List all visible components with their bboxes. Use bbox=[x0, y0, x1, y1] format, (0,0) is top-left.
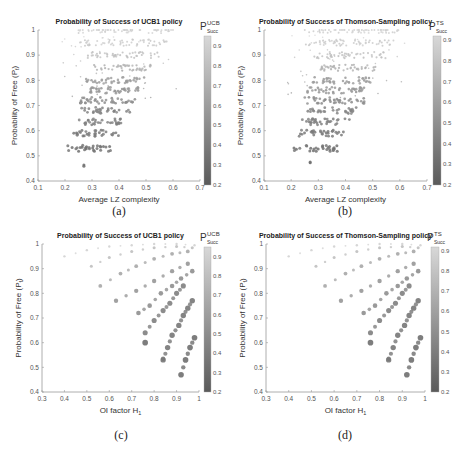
svg-text:Succ: Succ bbox=[207, 239, 219, 245]
colorbar-tick-label: 0.9 bbox=[213, 43, 222, 49]
y-tick-label: 0.5 bbox=[254, 364, 263, 371]
x-tick-label: 0.5 bbox=[307, 395, 316, 402]
svg-text:UCB: UCB bbox=[207, 20, 220, 26]
x-axis-label: Average LZ complexity bbox=[78, 195, 159, 204]
svg-text:TS: TS bbox=[436, 20, 444, 26]
y-tick-label: 0.9 bbox=[26, 51, 35, 58]
chart-panel-d: 0.30.40.50.60.70.80.910.40.50.60.70.80.9… bbox=[230, 225, 467, 434]
x-tick-label: 0.7 bbox=[352, 395, 361, 402]
colorbar bbox=[204, 247, 211, 392]
x-tick-label: 0.8 bbox=[150, 395, 159, 402]
colorbar-tick-label: 0.9 bbox=[441, 248, 450, 254]
colorbar-tick-label: 0.5 bbox=[213, 331, 222, 337]
x-tick-label: 1 bbox=[197, 395, 201, 402]
y-tick-label: 0.9 bbox=[252, 51, 261, 58]
y-tick-label: 0.5 bbox=[30, 364, 39, 371]
colorbar-tick-label: 0.8 bbox=[441, 268, 450, 274]
scatter-points bbox=[61, 29, 177, 168]
colorbar-tick-label: 0.4 bbox=[441, 349, 450, 355]
colorbar-tick-label: 0.3 bbox=[213, 162, 222, 168]
x-tick-label: 0.3 bbox=[261, 395, 270, 402]
x-tick-label: 0.7 bbox=[422, 184, 431, 191]
y-axis-label: Probability of Free (Pf) bbox=[236, 66, 246, 146]
chart-panel-a: 0.10.20.30.40.50.60.70.40.50.60.70.80.91… bbox=[0, 0, 237, 209]
x-tick-label: 0.1 bbox=[33, 184, 42, 191]
chart-title: Probability of Success of UCB1 policy bbox=[56, 18, 183, 26]
y-tick-label: 0.8 bbox=[254, 290, 263, 297]
colorbar-tick-label: 0.8 bbox=[443, 58, 452, 64]
x-tick-label: 0.3 bbox=[37, 395, 46, 402]
y-tick-label: 0.8 bbox=[26, 77, 35, 84]
colorbar-tick-label: 0.5 bbox=[213, 122, 222, 128]
x-tick-label: 0.4 bbox=[114, 184, 123, 191]
x-tick-label: 0.7 bbox=[195, 184, 204, 191]
y-axis-label: Probability of Free (Pf) bbox=[10, 66, 20, 146]
y-tick-label: 0.6 bbox=[30, 339, 39, 346]
colorbar-tick-label: 0.6 bbox=[441, 308, 450, 314]
x-tick-label: 0.6 bbox=[168, 184, 177, 191]
colorbar-tick-label: 0.2 bbox=[443, 182, 452, 188]
caption-a: (a) bbox=[99, 204, 139, 219]
colorbar-tick-label: 0.2 bbox=[441, 389, 450, 395]
x-axis-label: OI factor H1 bbox=[100, 406, 142, 416]
x-tick-label: 0.6 bbox=[395, 184, 404, 191]
x-tick-label: 0.3 bbox=[87, 184, 96, 191]
y-tick-label: 0.5 bbox=[26, 152, 35, 159]
colorbar-tick-label: 0.7 bbox=[441, 288, 450, 294]
y-tick-label: 0.8 bbox=[252, 77, 261, 84]
x-tick-label: 0.4 bbox=[60, 395, 69, 402]
scatter-points bbox=[288, 243, 424, 378]
x-tick-label: 0.2 bbox=[60, 184, 69, 191]
y-axis-label: Probability of Free (Pf) bbox=[14, 278, 24, 358]
colorbar-tick-label: 0.9 bbox=[213, 254, 222, 260]
caption-c: (c) bbox=[101, 428, 141, 443]
colorbar-tick-label: 0.7 bbox=[213, 83, 222, 89]
y-tick-label: 0.7 bbox=[26, 102, 35, 109]
y-tick-label: 0.6 bbox=[26, 127, 35, 134]
colorbar-tick-label: 0.6 bbox=[213, 103, 222, 109]
colorbar-tick-label: 0.2 bbox=[213, 182, 222, 188]
svg-text:Succ: Succ bbox=[436, 28, 448, 34]
colorbar-tick-label: 0.5 bbox=[443, 120, 452, 126]
x-tick-label: 1 bbox=[423, 395, 427, 402]
x-tick-label: 0.5 bbox=[141, 184, 150, 191]
y-tick-label: 1 bbox=[257, 26, 261, 33]
x-tick-label: 0.6 bbox=[105, 395, 114, 402]
colorbar-tick-label: 0.3 bbox=[443, 161, 452, 167]
colorbar-tick-label: 0.2 bbox=[213, 389, 222, 395]
x-tick-label: 0.3 bbox=[314, 184, 323, 191]
y-axis-label: Probability of Free (Pf) bbox=[238, 278, 248, 358]
y-tick-label: 1 bbox=[259, 240, 263, 247]
x-axis-label: Average LZ complexity bbox=[305, 195, 386, 204]
chart-panel-b: 0.10.20.30.40.50.60.70.40.50.60.70.80.91… bbox=[230, 0, 467, 209]
colorbar-tick-label: 0.7 bbox=[213, 292, 222, 298]
y-tick-label: 0.7 bbox=[252, 102, 261, 109]
caption-d: (d) bbox=[325, 428, 365, 443]
x-tick-label: 0.4 bbox=[284, 395, 293, 402]
chart-title: Probability of Success of UCB1 policy bbox=[57, 232, 184, 240]
colorbar-tick-label: 0.4 bbox=[213, 142, 222, 148]
scatter-plot-d: 0.30.40.50.60.70.80.910.40.50.60.70.80.9… bbox=[230, 225, 467, 430]
svg-text:TS: TS bbox=[434, 231, 442, 237]
scatter-points bbox=[287, 29, 406, 164]
x-axis-label: OI factor H1 bbox=[325, 406, 367, 416]
colorbar-tick-label: 0.6 bbox=[443, 99, 452, 105]
colorbar-label: P bbox=[200, 232, 207, 243]
x-tick-label: 0.4 bbox=[341, 184, 350, 191]
caption-b: (b) bbox=[325, 204, 365, 219]
colorbar-tick-label: 0.5 bbox=[441, 329, 450, 335]
x-tick-label: 0.9 bbox=[398, 395, 407, 402]
x-tick-label: 0.5 bbox=[82, 395, 91, 402]
y-tick-label: 0.6 bbox=[252, 127, 261, 134]
colorbar bbox=[433, 36, 441, 185]
colorbar-tick-label: 0.3 bbox=[213, 370, 222, 376]
y-tick-label: 1 bbox=[31, 26, 35, 33]
y-tick-label: 0.9 bbox=[30, 265, 39, 272]
x-tick-label: 0.7 bbox=[127, 395, 136, 402]
colorbar-tick-label: 0.7 bbox=[443, 79, 452, 85]
colorbar-label: P bbox=[427, 232, 434, 243]
x-tick-label: 0.9 bbox=[172, 395, 181, 402]
chart-panel-c: 0.30.40.50.60.70.80.910.40.50.60.70.80.9… bbox=[0, 225, 237, 434]
scatter-plot-c: 0.30.40.50.60.70.80.910.40.50.60.70.80.9… bbox=[0, 225, 237, 430]
colorbar-tick-label: 0.8 bbox=[213, 63, 222, 69]
